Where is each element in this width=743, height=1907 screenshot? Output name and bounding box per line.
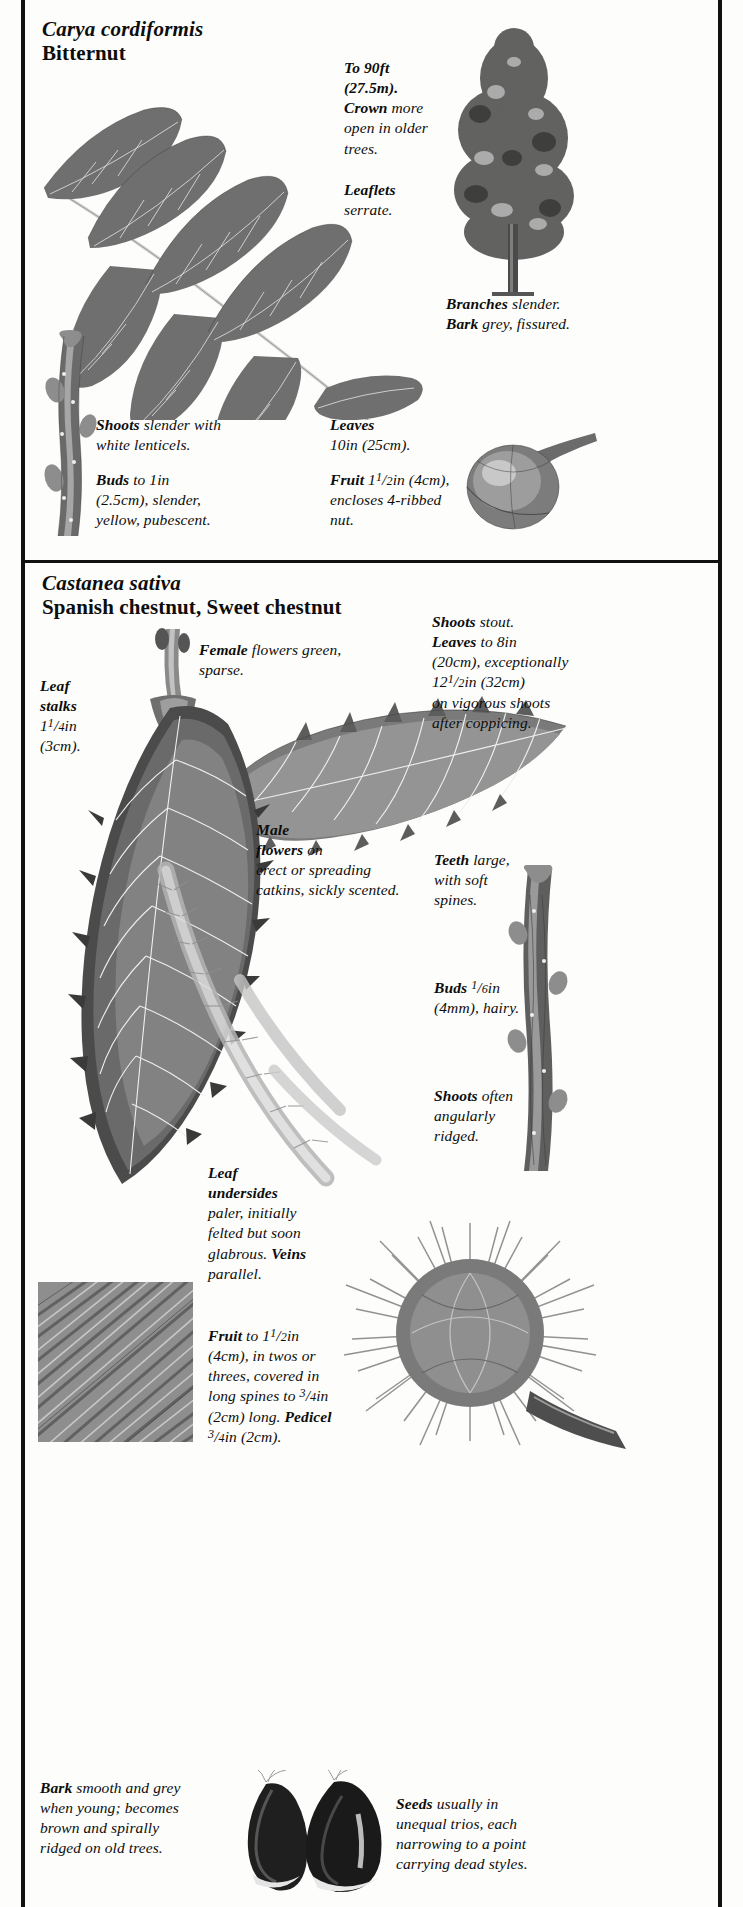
species-common-name: Bitternut [42,42,204,66]
species-heading-castanea: Castanea sativa Spanish chestnut, Sweet … [42,572,342,620]
caption-shoots: Shoots slender withwhite lenticels. [96,415,306,455]
field-guide-page: Carya cordiformis Bitternut [0,0,743,1907]
caption-branches-bark: Branches slender.Bark grey, fissured. [446,294,696,334]
caption-fruit: Fruit to 11/2in (4cm), in twos or threes… [208,1326,398,1447]
species-common-name: Spanish chestnut, Sweet chestnut [42,596,342,620]
caption-bark: Bark smooth and grey when young; becomes… [40,1778,240,1859]
chestnut-seeds-nuts [222,1770,392,1900]
caption-buds: Buds 1/6in(4mm), hairy. [434,978,564,1018]
caption-leaves: Leaves10in (25cm). [330,415,490,455]
caption-shoots-ridged: Shoots oftenangularlyridged. [434,1086,574,1146]
page-rule-left [21,0,25,1907]
species-heading-carya: Carya cordiformis Bitternut [42,18,204,66]
section-divider [21,560,718,563]
species-latin-name: Carya cordiformis [42,18,204,42]
caption-seeds: Seeds usually in unequal trios, each nar… [396,1794,616,1875]
caption-leaf-undersides: Leafundersides paler, initiallyfelted bu… [208,1163,368,1284]
caption-leaflets: Leafletsserrate. [344,180,494,220]
caption-leaf-stalks: Leafstalks 11/4in(3cm). [40,676,150,757]
caption-teeth: Teeth large,with softspines. [434,850,564,910]
caption-fruit: Fruit 11/2in (4cm), encloses 4-ribbednut… [330,470,530,530]
caption-female-flowers: Female flowers green,sparse. [199,640,409,680]
page-rule-right [718,0,722,1907]
chestnut-bark-texture [38,1282,193,1442]
caption-shoots-leaves: Shoots stout. Leaves to 8in (20cm), exce… [432,612,682,733]
species-latin-name: Castanea sativa [42,572,342,596]
caption-height-crown: To 90ft(27.5m).Crown moreopen in oldertr… [344,58,494,159]
caption-buds: Buds to 1in(2.5cm), slender,yellow, pube… [96,470,311,530]
